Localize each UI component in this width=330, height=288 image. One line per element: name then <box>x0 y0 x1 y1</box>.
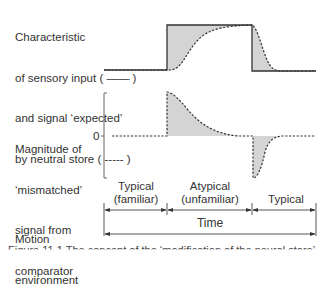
time-label: Time <box>197 216 224 230</box>
phase-2-line1: Atypical <box>190 180 230 192</box>
phase-2-line2: (unfamiliar) <box>181 193 239 205</box>
offset-shaded-area <box>252 25 278 71</box>
phase-3-label: Typical <box>268 193 304 205</box>
middle-axis <box>104 93 107 178</box>
phase-1-line2: (familiar) <box>114 193 159 205</box>
expected-signal-line <box>104 25 316 71</box>
zero-tick-label: 0 <box>93 130 99 142</box>
negative-mismatch-area <box>253 136 280 178</box>
phase-1-line1: Typical <box>118 180 154 192</box>
